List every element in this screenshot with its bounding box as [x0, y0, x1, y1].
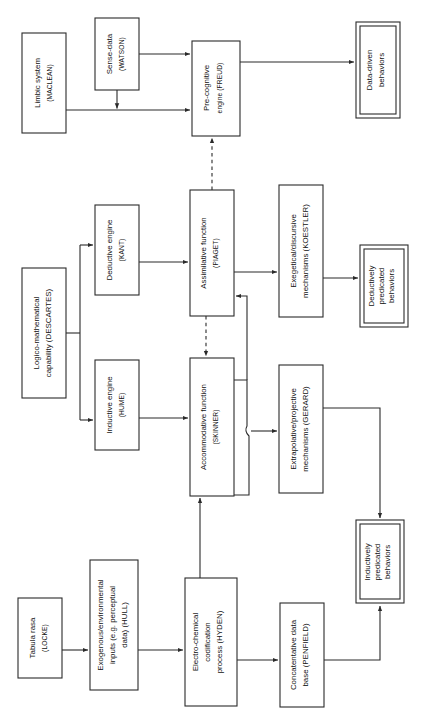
node-deductively-predicated-behaviors[interactable]: Deductively predicated behaviors	[360, 245, 408, 327]
node-inductively-line1: Inductively	[363, 543, 372, 580]
node-limbic-system[interactable]: Limbic system (MACLEAN)	[22, 33, 66, 133]
node-extrapolative-line1: Extrapolative/projective	[289, 388, 298, 470]
node-data-driven-behaviors-line2: behaviors	[377, 53, 386, 87]
node-deductive-engine-line1: Deductive engine	[105, 219, 114, 281]
node-deductively-line2: predicated	[377, 268, 386, 305]
edge-accommodative-to-assimilative	[234, 380, 249, 495]
node-concatentative-line1: Concatentative data	[289, 619, 298, 690]
node-deductive-engine-line2: (KANT)	[118, 239, 126, 262]
node-exegetical-line2: mechanisms (KOESTLER)	[301, 204, 310, 298]
node-inductive-engine-line2: (HUME)	[118, 393, 126, 418]
node-concatentative-line2: base (PENFIELD)	[301, 623, 310, 687]
node-precognitive-engine-line1: Pre-cognitive	[202, 64, 211, 111]
node-limbic-system-line2: (MACLEAN)	[46, 64, 54, 102]
node-deductively-line3: behaviors	[387, 269, 396, 303]
node-tabula-rasa-line1: Tabula rasa	[28, 617, 37, 658]
node-exogenous-line2: inputs (e.g. perceptual	[108, 586, 117, 664]
node-sense-data-line2: (WATSON)	[118, 37, 126, 71]
node-exegetical-line1: Exegetical/discursive	[289, 214, 298, 288]
node-logico-line1: Logico-mathematical	[32, 296, 41, 369]
node-precognitive-engine-line2: engine (FREUD)	[216, 63, 224, 114]
node-electro-chemical-codification-process[interactable]: Electro-chemical codification process (H…	[185, 578, 237, 706]
node-extrapolative-line2: mechanisms (GERARD)	[301, 386, 310, 472]
node-tabula-rasa[interactable]: Tabula rasa (LOCKE)	[18, 598, 62, 678]
node-inductive-engine[interactable]: Inductive engine (HUME)	[95, 360, 139, 450]
node-electro-line2: codification	[203, 622, 212, 661]
node-tabula-rasa-line2: (LOCKE)	[41, 624, 49, 652]
node-inductive-engine-line1: Inductive engine	[105, 376, 114, 434]
node-assimilative-function-line2: (PIAGET)	[212, 238, 220, 268]
node-exogenous-line3: data) (HULL)	[120, 602, 129, 648]
node-electro-line3: process (HYDEN)	[215, 610, 224, 673]
node-accommodative-function[interactable]: Accommodative function (SKINNER)	[190, 358, 234, 496]
node-inductively-line2: predicated	[373, 544, 382, 581]
node-concatentative-data-base[interactable]: Concatentative data base (PENFIELD)	[280, 603, 324, 707]
flowchart-diagram: Limbic system (MACLEAN) Sense-data (WATS…	[0, 0, 434, 723]
node-exegetical-discursive-mechanisms[interactable]: Exegetical/discursive mechanisms (KOESTL…	[279, 185, 323, 317]
node-layer: Limbic system (MACLEAN) Sense-data (WATS…	[18, 18, 408, 707]
node-exogenous-environmental-inputs[interactable]: Exogenous/environmental inputs (e.g. per…	[90, 560, 138, 690]
diagram-canvas: Limbic system (MACLEAN) Sense-data (WATS…	[0, 0, 434, 723]
node-sense-data[interactable]: Sense-data (WATSON)	[95, 18, 139, 90]
node-accommodative-function-line1: Accommodative function	[199, 384, 208, 470]
node-extrapolative-projective-mechanisms[interactable]: Extrapolative/projective mechanisms (GER…	[279, 365, 323, 493]
node-assimilative-function-line1: Assimilative function	[199, 217, 208, 288]
edge-concatentative-to-inductively	[324, 606, 380, 660]
node-deductive-engine[interactable]: Deductive engine (KANT)	[95, 205, 139, 295]
node-logico-line2: capability (DESCARTES)	[44, 288, 53, 377]
node-precognitive-engine[interactable]: Pre-cognitive engine (FREUD)	[192, 41, 240, 136]
edge-extrapolative-to-inductively	[323, 408, 380, 518]
node-sense-data-line1: Sense-data	[105, 33, 114, 74]
node-accommodative-function-line2: (SKINNER)	[212, 409, 220, 444]
node-inductively-predicated-behaviors[interactable]: Inductively predicated behaviors	[356, 520, 404, 603]
node-inductively-line3: behaviors	[383, 545, 392, 579]
node-limbic-system-line1: Limbic system	[33, 58, 42, 108]
node-logico-mathematical-capability[interactable]: Logico-mathematical capability (DESCARTE…	[22, 268, 66, 398]
node-data-driven-behaviors-line1: Data-driven	[365, 50, 374, 91]
node-exogenous-line1: Exogenous/environmental	[96, 579, 105, 670]
node-assimilative-function[interactable]: Assimilative function (PIAGET)	[190, 190, 234, 316]
node-deductively-line1: Deductively	[367, 266, 376, 307]
edge-accommodative-riser	[238, 296, 247, 380]
node-electro-line1: Electro-chemical	[191, 613, 200, 672]
node-data-driven-behaviors[interactable]: Data-driven behaviors	[356, 22, 400, 118]
